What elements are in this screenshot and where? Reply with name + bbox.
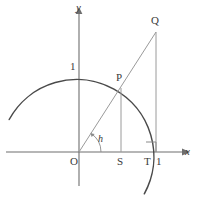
unit-x-label: 1 — [156, 156, 162, 167]
x-axis-label: x — [185, 146, 190, 157]
angle-h-label: h — [98, 134, 103, 144]
right-angle-marker — [146, 142, 156, 152]
x-axis — [6, 149, 190, 156]
y-axis-label: y — [76, 2, 81, 13]
point-p-label: P — [116, 72, 122, 83]
ray-o-p-q — [79, 32, 156, 152]
angle-arc-arrowhead — [91, 133, 95, 137]
point-t-label: T — [144, 156, 151, 167]
figure-canvas — [0, 0, 200, 199]
point-q-label: Q — [151, 15, 159, 26]
point-s-label: S — [117, 156, 123, 167]
unit-circle-arc — [9, 80, 154, 194]
origin-label: O — [70, 156, 78, 167]
unit-y-label: 1 — [70, 61, 76, 72]
geometry-figure: y x O 1 P Q S T 1 h — [0, 0, 200, 199]
